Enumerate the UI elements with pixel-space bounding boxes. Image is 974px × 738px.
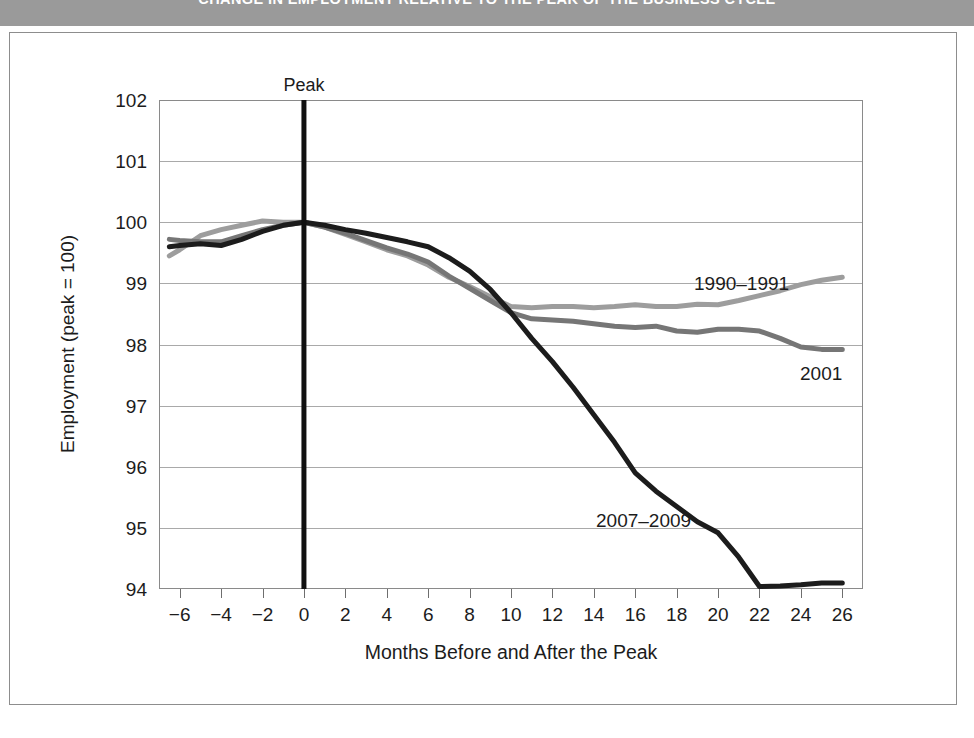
chart-page: CHANGE IN EMPLOYMENT RELATIVE TO THE PEA…: [0, 0, 974, 738]
series-label-2007-2009: 2007–2009: [596, 510, 691, 532]
figure-card: Employment (peak = 100) Months Before an…: [9, 32, 957, 705]
figure-title: CHANGE IN EMPLOYMENT RELATIVE TO THE PEA…: [0, 0, 974, 7]
series-label-2001: 2001: [800, 363, 842, 385]
series-label-1990-1991: 1990–1991: [694, 273, 789, 295]
chart-area: Employment (peak = 100) Months Before an…: [10, 33, 958, 706]
header-band: CHANGE IN EMPLOYMENT RELATIVE TO THE PEA…: [0, 0, 974, 26]
